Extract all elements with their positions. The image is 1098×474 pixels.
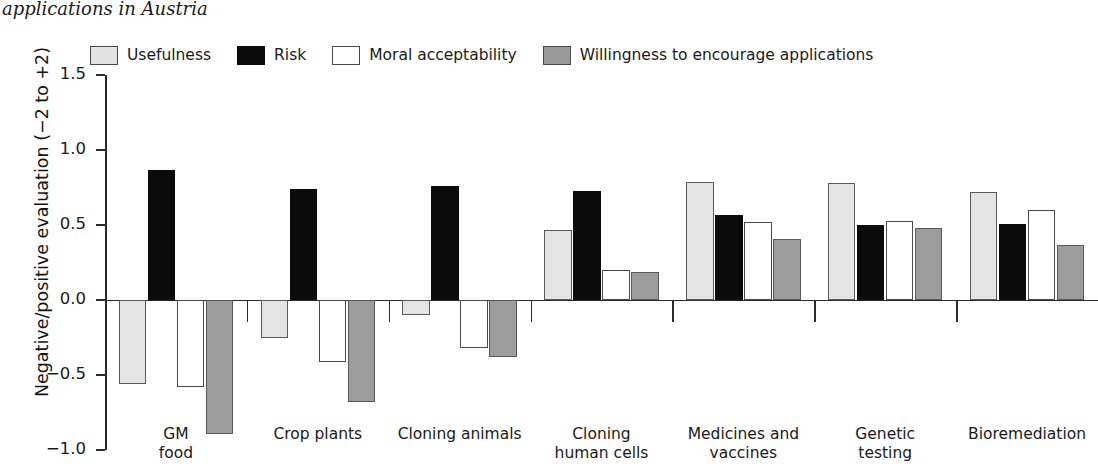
y-tick-mark — [96, 449, 105, 451]
group-separator-tick — [531, 300, 533, 322]
group-separator-tick — [672, 300, 674, 322]
x-label-7: Bioremediation — [956, 425, 1098, 444]
y-tick-mark — [96, 74, 105, 76]
bar-usefulness-group-2 — [261, 300, 289, 338]
y-axis-line — [105, 75, 107, 450]
x-label-line: human cells — [531, 444, 673, 463]
x-label-4: Cloninghuman cells — [531, 425, 673, 463]
x-label-6: Genetictesting — [814, 425, 956, 463]
chart-plot-area: Negative/positive evaluation (−2 to +2) … — [0, 0, 1098, 474]
x-label-1: GMfood — [105, 425, 247, 463]
x-label-3: Cloning animals — [389, 425, 531, 444]
y-tick-label: −1.0 — [34, 439, 86, 458]
x-label-line: Medicines and — [672, 425, 814, 444]
x-label-2: Crop plants — [247, 425, 389, 444]
bar-risk-group-6 — [857, 225, 885, 300]
group-separator-tick — [389, 300, 391, 322]
bar-willingness-group-6 — [915, 228, 943, 300]
bar-risk-group-3 — [431, 186, 459, 300]
group-separator-tick — [814, 300, 816, 322]
bar-risk-group-7 — [999, 224, 1027, 301]
x-label-line: testing — [814, 444, 956, 463]
bar-usefulness-group-4 — [544, 230, 572, 301]
x-label-line: Cloning animals — [389, 425, 531, 444]
y-tick-label: −0.5 — [34, 364, 86, 383]
bar-moral-group-4 — [602, 270, 630, 300]
y-tick-mark — [96, 299, 105, 301]
bar-usefulness-group-1 — [119, 300, 147, 384]
bar-willingness-group-1 — [206, 300, 234, 434]
bar-risk-group-4 — [573, 191, 601, 301]
y-tick-label: 0.5 — [34, 214, 86, 233]
bar-usefulness-group-7 — [970, 192, 998, 300]
x-label-line: Genetic — [814, 425, 956, 444]
bar-willingness-group-3 — [489, 300, 517, 357]
group-separator-tick — [247, 300, 249, 322]
x-label-line: Bioremediation — [956, 425, 1098, 444]
y-tick-mark — [96, 224, 105, 226]
y-tick-label: 1.0 — [34, 139, 86, 158]
bar-willingness-group-2 — [348, 300, 376, 402]
x-label-line: Cloning — [531, 425, 673, 444]
bar-willingness-group-5 — [773, 239, 801, 301]
bar-risk-group-1 — [148, 170, 176, 301]
bar-risk-group-5 — [715, 215, 743, 301]
bar-willingness-group-7 — [1057, 245, 1085, 301]
bar-moral-group-6 — [886, 221, 914, 301]
x-label-line: Crop plants — [247, 425, 389, 444]
bar-usefulness-group-6 — [828, 183, 856, 300]
bar-moral-group-7 — [1028, 210, 1056, 300]
y-tick-label: 1.5 — [34, 64, 86, 83]
x-label-line: vaccines — [672, 444, 814, 463]
x-label-line: food — [105, 444, 247, 463]
group-separator-tick — [956, 300, 958, 322]
y-tick-label: 0.0 — [34, 289, 86, 308]
bar-moral-group-3 — [460, 300, 488, 348]
bar-moral-group-5 — [744, 222, 772, 300]
y-tick-mark — [96, 374, 105, 376]
bar-willingness-group-4 — [631, 272, 659, 301]
bar-usefulness-group-5 — [686, 182, 714, 301]
bar-moral-group-1 — [177, 300, 205, 387]
bar-moral-group-2 — [319, 300, 347, 362]
x-label-5: Medicines andvaccines — [672, 425, 814, 463]
x-label-line: GM — [105, 425, 247, 444]
y-tick-mark — [96, 149, 105, 151]
bar-usefulness-group-3 — [402, 300, 430, 315]
bar-risk-group-2 — [290, 189, 318, 300]
